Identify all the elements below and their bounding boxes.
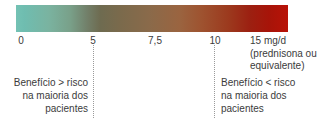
dotted-divider-at-10 xyxy=(214,45,216,118)
dose-gradient-colorbar xyxy=(16,5,288,32)
dose-risk-benefit-figure: 0 5 7,5 10 15 mg/d (prednisona ou equiva… xyxy=(0,0,335,120)
annotation-right-line-2: na maioria dos xyxy=(221,89,335,102)
axis-tick-label-0: 0 xyxy=(18,35,24,47)
axis-unit-label-line-3: equivalente) xyxy=(250,60,317,73)
axis-unit-label-line-1: 15 mg/d xyxy=(250,35,317,48)
annotation-left-line-2: na maioria dos xyxy=(0,89,88,102)
axis-tick-label-7-5: 7,5 xyxy=(148,35,162,47)
axis-unit-label-line-2: (prednisona ou xyxy=(250,48,317,61)
annotation-benefit-less-than-risk: Benefício < risco na maioria dos pacient… xyxy=(221,76,335,115)
axis-unit-label: 15 mg/d (prednisona ou equivalente) xyxy=(250,35,317,73)
dotted-divider-at-5 xyxy=(93,45,95,118)
annotation-right-line-1: Benefício < risco xyxy=(221,76,335,89)
annotation-right-line-3: pacientes xyxy=(221,102,335,115)
annotation-left-line-3: pacientes xyxy=(0,102,88,115)
annotation-benefit-greater-than-risk: Benefício > risco na maioria dos pacient… xyxy=(0,76,88,115)
annotation-left-line-1: Benefício > risco xyxy=(0,76,88,89)
